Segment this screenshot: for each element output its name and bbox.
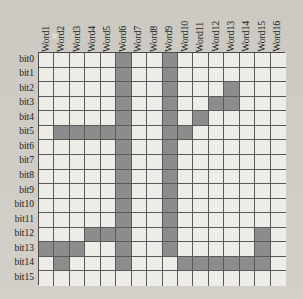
row-header-column: bit0bit1bit2bit3bit4bit5bit6bit7bit8bit9… [0,52,36,285]
matrix-cell [70,170,85,185]
matrix-cell [54,184,69,199]
matrix-cell [193,184,208,199]
matrix-cell [54,170,69,185]
matrix-cell [224,68,239,83]
matrix-cell [255,184,270,199]
matrix-cell [147,111,162,126]
matrix-cell [178,155,193,170]
matrix-cell [255,111,270,126]
matrix-cell [271,257,286,272]
matrix-cell [163,140,178,155]
matrix-cell [85,68,100,83]
matrix-cell [193,126,208,141]
column-label-text: Word13 [226,21,236,52]
column-label-word16: Word16 [270,0,285,52]
matrix-cell [70,257,85,272]
matrix-cell [54,68,69,83]
matrix-cell [271,82,286,97]
matrix-cell [132,97,147,112]
matrix-cell [209,126,224,141]
matrix-cell [39,199,54,214]
matrix-cell [193,97,208,112]
matrix-cell [147,126,162,141]
matrix-cell [163,155,178,170]
matrix-cell [132,68,147,83]
matrix-cell [209,257,224,272]
column-label-word15: Word15 [254,0,269,52]
matrix-cell [70,184,85,199]
matrix-cell [224,111,239,126]
column-label-word9: Word9 [162,0,177,52]
matrix-cell [132,170,147,185]
matrix-cell [271,228,286,243]
matrix-cell [224,97,239,112]
column-label-text: Word10 [180,21,190,52]
matrix-cell [224,155,239,170]
matrix-cell [132,213,147,228]
matrix-cell [209,271,224,286]
matrix-cell [85,257,100,272]
row-label-bit4: bit4 [0,110,34,125]
matrix-cell [271,170,286,185]
matrix-cell [163,170,178,185]
matrix-cell [240,97,255,112]
matrix-cell [224,257,239,272]
column-label-text: Word5 [102,26,112,52]
matrix-cell [39,155,54,170]
matrix-cell [163,126,178,141]
matrix-cell [39,213,54,228]
matrix-cell [54,53,69,68]
matrix-cell [224,82,239,97]
row-label-bit2: bit2 [0,81,34,96]
matrix-cell [116,155,131,170]
matrix-cell [178,53,193,68]
matrix-grid [38,52,285,285]
matrix-cell [178,199,193,214]
matrix-cell [85,126,100,141]
column-label-text: Word9 [164,26,174,52]
matrix-cell [85,111,100,126]
matrix-cell [209,111,224,126]
matrix-cell [132,140,147,155]
column-label-text: Word6 [118,26,128,52]
matrix-cell [101,242,116,257]
column-label-word6: Word6 [115,0,130,52]
matrix-cell [70,242,85,257]
matrix-cell [240,170,255,185]
matrix-cell [163,111,178,126]
matrix-cell [54,213,69,228]
matrix-cell [39,257,54,272]
matrix-cell [116,53,131,68]
matrix-cell [70,68,85,83]
row-label-bit8: bit8 [0,169,34,184]
matrix-cell [224,228,239,243]
matrix-cell [193,242,208,257]
matrix-cell [193,213,208,228]
column-label-text: Word16 [272,21,282,52]
column-label-text: Word14 [241,21,251,52]
matrix-cell [54,228,69,243]
matrix-cell [39,82,54,97]
matrix-cell [101,257,116,272]
matrix-cell [147,68,162,83]
matrix-cell [163,228,178,243]
matrix-cell [54,257,69,272]
matrix-cell [70,199,85,214]
matrix-cell [132,53,147,68]
matrix-cell [271,53,286,68]
matrix-cell [163,184,178,199]
matrix-cell [209,213,224,228]
matrix-cell [70,126,85,141]
column-label-word12: Word12 [208,0,223,52]
matrix-cell [101,184,116,199]
matrix-cell [70,53,85,68]
matrix-cell [193,228,208,243]
row-label-bit9: bit9 [0,183,34,198]
matrix-cell [193,111,208,126]
matrix-cell [240,82,255,97]
matrix-cell [209,242,224,257]
row-label-bit13: bit13 [0,241,34,256]
matrix-cell [240,140,255,155]
column-label-word8: Word8 [146,0,161,52]
matrix-cell [240,271,255,286]
